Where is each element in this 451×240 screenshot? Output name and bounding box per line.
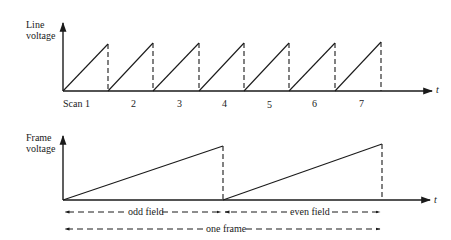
line-sawtooth	[63, 42, 381, 91]
scan-label-4: 4	[222, 98, 227, 109]
line-flyback-dashes	[108, 42, 381, 91]
line-voltage-ylabel-1: Line	[26, 19, 55, 30]
scan-label-7: 7	[359, 98, 364, 109]
top-time-label: t	[436, 84, 439, 95]
scan-label-2: 2	[131, 98, 136, 109]
odd-field-label: odd field	[128, 206, 164, 217]
waveform-diagram	[0, 0, 451, 240]
frame-voltage-ylabel-1: Frame	[26, 132, 55, 143]
bottom-time-label: t	[434, 194, 437, 205]
line-voltage-ylabel-2: voltage	[26, 30, 55, 41]
line-voltage-chart	[63, 23, 432, 91]
scan-label-1: Scan 1	[63, 98, 90, 109]
frame-voltage-ylabel-2: voltage	[26, 143, 55, 154]
line-voltage-ylabel: Line voltage	[26, 19, 55, 41]
scan-label-3: 3	[177, 98, 182, 109]
scan-label-6: 6	[312, 98, 317, 109]
frame-voltage-ylabel: Frame voltage	[26, 132, 55, 154]
frame-voltage-chart	[63, 136, 430, 229]
scan-label-5: 5	[267, 99, 272, 110]
one-frame-label: one frame	[206, 223, 246, 234]
even-field-label: even field	[290, 206, 330, 217]
